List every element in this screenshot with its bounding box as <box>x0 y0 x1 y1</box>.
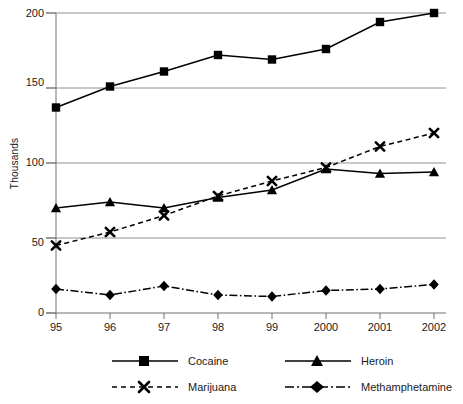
gridlines <box>46 13 446 238</box>
data-point-cocaine <box>322 45 330 53</box>
data-point-heroin <box>429 167 439 176</box>
data-point-marijuana <box>106 228 114 236</box>
plot-area <box>0 0 463 404</box>
y-axis-ticks <box>46 13 56 313</box>
x-tick-label-2001: 2001 <box>360 322 400 333</box>
data-point-heroin <box>267 185 277 194</box>
legend-item-methamphetamine[interactable]: Methamphetamine <box>283 378 452 396</box>
series-heroin <box>51 164 439 212</box>
axis-lines <box>46 13 446 313</box>
data-point-methamphetamine <box>51 284 61 294</box>
x-tick-label-98: 98 <box>198 322 238 333</box>
y-tick-label-50: 50 <box>10 237 44 248</box>
chart-container: Thousands 200 150 100 50 0 95 96 97 98 9… <box>0 0 463 404</box>
data-point-marijuana <box>322 163 330 171</box>
data-point-marijuana <box>160 211 168 219</box>
y-tick-label-200: 200 <box>10 8 44 19</box>
legend-swatch-heroin-triangle-icon <box>283 354 353 368</box>
series-methamphetamine <box>51 279 439 301</box>
legend-swatch-cocaine-square-icon <box>110 354 180 368</box>
legend-swatch-methamphetamine-diamond-icon <box>283 380 353 394</box>
data-point-methamphetamine <box>159 281 169 291</box>
data-point-cocaine <box>106 82 114 90</box>
data-point-methamphetamine <box>429 279 439 289</box>
data-point-heroin <box>51 203 61 212</box>
legend-label-methamphetamine: Methamphetamine <box>361 381 452 393</box>
data-point-marijuana <box>268 177 276 185</box>
y-tick-label-100: 100 <box>10 157 44 168</box>
data-point-cocaine <box>376 18 384 26</box>
x-tick-label-95: 95 <box>36 322 76 333</box>
data-point-cocaine <box>430 9 438 17</box>
legend-item-marijuana[interactable]: Marijuana <box>110 378 236 396</box>
x-tick-label-96: 96 <box>90 322 130 333</box>
x-axis-ticks <box>56 313 434 319</box>
data-series-group <box>51 9 439 302</box>
data-point-heroin <box>159 203 169 212</box>
y-tick-label-150: 150 <box>10 77 44 88</box>
x-tick-label-99: 99 <box>252 322 292 333</box>
x-tick-label-2000: 2000 <box>306 322 346 333</box>
data-point-heroin <box>321 164 331 173</box>
data-point-cocaine <box>160 67 168 75</box>
data-point-marijuana <box>52 241 60 249</box>
data-point-marijuana <box>430 129 438 137</box>
data-point-methamphetamine <box>213 290 223 300</box>
series-marijuana <box>52 129 438 250</box>
x-tick-label-97: 97 <box>144 322 184 333</box>
x-tick-label-2002: 2002 <box>414 322 454 333</box>
chart-legend: Cocaine Heroin Mariju <box>0 348 463 404</box>
data-point-methamphetamine <box>105 290 115 300</box>
data-point-marijuana <box>376 142 384 150</box>
data-point-cocaine <box>52 103 60 111</box>
legend-swatch-marijuana-x-icon <box>110 380 180 394</box>
data-point-heroin <box>375 169 385 178</box>
legend-item-cocaine[interactable]: Cocaine <box>110 352 228 370</box>
data-point-marijuana <box>214 192 222 200</box>
legend-label-marijuana: Marijuana <box>188 381 236 393</box>
legend-label-cocaine: Cocaine <box>188 355 228 367</box>
data-point-cocaine <box>268 55 276 63</box>
legend-item-heroin[interactable]: Heroin <box>283 352 393 370</box>
data-point-methamphetamine <box>267 291 277 301</box>
data-point-cocaine <box>214 51 222 59</box>
data-point-methamphetamine <box>375 284 385 294</box>
y-axis-tick-labels: 200 150 100 50 0 <box>0 0 44 340</box>
series-cocaine <box>52 9 438 112</box>
legend-label-heroin: Heroin <box>361 355 393 367</box>
data-point-heroin <box>105 197 115 206</box>
data-point-methamphetamine <box>321 285 331 295</box>
data-point-heroin <box>213 193 223 202</box>
y-tick-label-0: 0 <box>10 307 44 318</box>
